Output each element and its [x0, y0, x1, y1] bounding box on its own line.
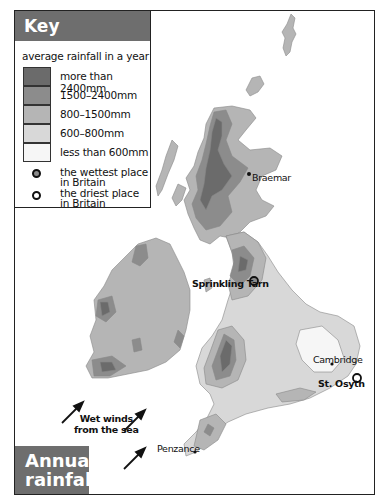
place-label-cambridge: Cambridge: [313, 354, 363, 365]
swatch-band-1: [23, 86, 51, 105]
swatch-band-2: [23, 105, 51, 124]
band-label: 1500–2400mm: [60, 89, 137, 101]
driest-symbol-icon: [32, 191, 41, 200]
band-label: 600–800mm: [60, 127, 124, 139]
band-label: less than 600mm: [60, 146, 148, 158]
place-label-st-osyth: St. Osyth: [318, 378, 365, 389]
northern-isles: [246, 14, 296, 96]
map-title: Annual rainfall: [15, 446, 89, 494]
place-label-penzance: Penzance: [157, 443, 200, 454]
wettest-symbol-icon: [32, 169, 41, 178]
driest-label: the driest place in Britain: [60, 188, 139, 208]
england-wales: [184, 232, 360, 456]
ireland: [86, 238, 190, 378]
band-label: 800–1500mm: [60, 108, 130, 120]
swatch-band-4: [23, 143, 51, 162]
place-label-braemar: Braemar: [252, 172, 291, 183]
map-key: Key average rainfall in a year more than…: [14, 10, 151, 208]
place-label-sprinkling-tarn: Sprinkling Tarn: [192, 278, 269, 289]
braemar-marker: [247, 172, 251, 176]
wettest-label: the wettest place in Britain: [60, 167, 148, 187]
swatch-band-0: [23, 67, 51, 86]
key-heading: Key: [15, 11, 150, 41]
swatch-band-3: [23, 124, 51, 143]
wind-annotation: Wet winds from the sea: [74, 413, 139, 435]
key-subtitle: average rainfall in a year: [22, 50, 149, 62]
